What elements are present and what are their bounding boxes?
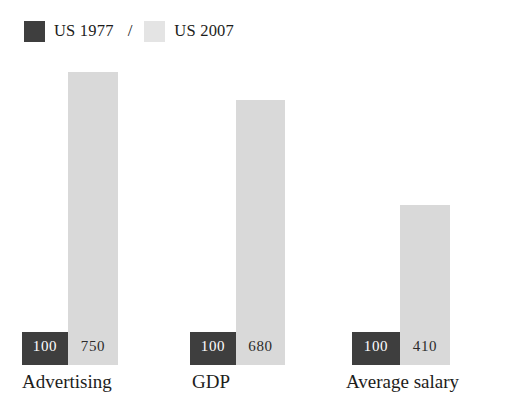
bar-value-gdp-us-1977: 100 bbox=[201, 339, 225, 365]
bar-chart-plot-area: 100 750 Advertising 100 680 GDP 100 410 bbox=[0, 0, 510, 418]
bar-group-advertising-bars: 100 750 bbox=[22, 72, 118, 365]
bar-value-advertising-us-1977: 100 bbox=[33, 339, 57, 365]
axis-label-gdp: GDP bbox=[192, 371, 230, 393]
bar-value-average-salary-us-2007: 410 bbox=[413, 339, 437, 365]
bar-gdp-us-2007: 680 bbox=[236, 100, 285, 365]
bar-value-gdp-us-2007: 680 bbox=[248, 339, 272, 365]
axis-label-advertising: Advertising bbox=[22, 371, 112, 393]
bar-advertising-us-1977: 100 bbox=[22, 332, 68, 365]
bar-average-salary-us-2007: 410 bbox=[400, 205, 450, 365]
bar-group-average-salary-bars: 100 410 bbox=[352, 205, 450, 365]
bar-group-gdp-bars: 100 680 bbox=[190, 100, 285, 365]
bar-value-average-salary-us-1977: 100 bbox=[364, 339, 388, 365]
bar-average-salary-us-1977: 100 bbox=[352, 332, 400, 365]
bar-advertising-us-2007: 750 bbox=[68, 72, 118, 365]
axis-label-average-salary: Average salary bbox=[346, 371, 459, 393]
bar-value-advertising-us-2007: 750 bbox=[81, 339, 105, 365]
bar-gdp-us-1977: 100 bbox=[190, 332, 236, 365]
